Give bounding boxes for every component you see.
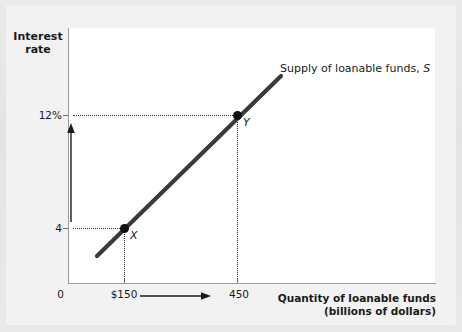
x-axis-title: Quantity of loanable funds (billions of …: [236, 292, 436, 318]
y-tick-label-4: 4: [22, 222, 62, 234]
guide-line-450-vertical: [237, 115, 238, 279]
guide-line-12-horizontal: [73, 115, 237, 116]
origin-label: 0: [54, 288, 64, 300]
y-tick-mark-4: [63, 228, 68, 229]
x-tick-label-150: $150: [98, 288, 150, 300]
y-tick-mark-12: [63, 115, 68, 116]
data-point-label-y: Y: [243, 116, 250, 129]
chart-figure: Interest rate 12% 4 0 $150 450 X Y Suppl…: [0, 0, 462, 332]
x-axis-line: [68, 283, 436, 284]
guide-line-4-horizontal: [73, 228, 124, 229]
supply-curve-label-text: Supply of loanable funds,: [280, 62, 423, 75]
supply-curve-label: Supply of loanable funds, S: [280, 62, 430, 75]
y-axis-line: [68, 28, 69, 284]
data-point-label-x: X: [130, 229, 138, 242]
data-point-y: [233, 111, 242, 120]
data-point-x: [120, 224, 129, 233]
y-axis-title: Interest rate: [12, 30, 64, 56]
y-tick-label-12: 12%: [22, 109, 62, 121]
supply-curve-label-symbol: S: [423, 62, 430, 75]
guide-line-150-vertical: [124, 228, 125, 279]
